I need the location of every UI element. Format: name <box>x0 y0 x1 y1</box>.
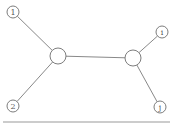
nodes-group: 1i2j <box>7 6 168 113</box>
edge-hubR-nj <box>137 65 157 102</box>
node-circle <box>125 50 141 66</box>
node-label: j <box>158 103 161 112</box>
node-hubL <box>50 48 66 64</box>
node-n1: 1 <box>7 6 19 18</box>
node-nj: j <box>154 101 166 113</box>
node-n2: 2 <box>7 100 19 112</box>
node-label: 1 <box>10 8 15 17</box>
node-hubR <box>125 50 141 66</box>
edge-n1-hubL <box>17 16 52 50</box>
node-label: i <box>161 28 164 37</box>
node-circle <box>50 48 66 64</box>
edge-hubR-ni <box>139 36 158 53</box>
edge-hubL-hubR <box>66 56 125 58</box>
node-ni: i <box>156 26 168 38</box>
edge-n2-hubL <box>17 62 53 102</box>
tree-diagram: 1i2j <box>0 0 183 127</box>
node-label: 2 <box>10 102 15 111</box>
